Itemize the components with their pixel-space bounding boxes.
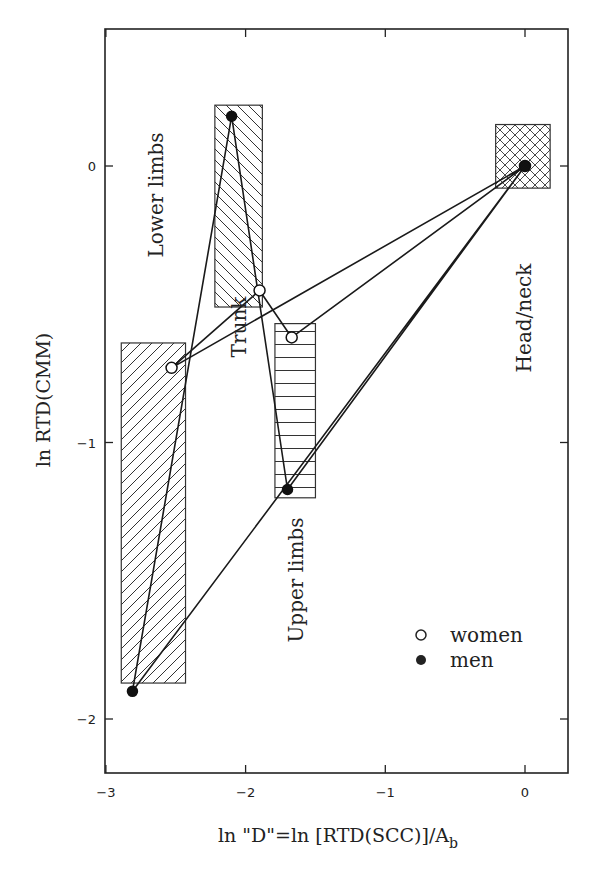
y-tick-label: −2: [77, 712, 96, 727]
legend: women men: [416, 623, 523, 672]
legend-label-men: men: [450, 648, 494, 672]
y-tick-label: −1: [77, 436, 96, 451]
lines-layer: [132, 116, 525, 691]
point-men-head-neck-overlay: [520, 161, 530, 171]
region-label-lower-limbs: Lower limbs: [144, 132, 168, 257]
y-axis-title: ln RTD(CMM): [32, 333, 54, 468]
x-tick-label: −1: [376, 785, 395, 800]
point-men-upper-limbs: [283, 485, 293, 495]
legend-marker-women: [416, 630, 426, 640]
y-tick-label: 0: [88, 159, 96, 174]
region-label-head-neck: Head/neck: [512, 263, 536, 373]
point-women-trunk: [254, 285, 265, 296]
region-label-upper-limbs: Upper limbs: [284, 517, 308, 642]
point-women-upper-limbs: [286, 332, 297, 343]
x-tick-label: 0: [521, 785, 529, 800]
legend-marker-men: [416, 655, 426, 665]
x-axis-title: ln "D"=ln [RTD(SCC)]/Ab: [218, 824, 458, 851]
x-tick-label: −3: [96, 785, 115, 800]
region-box-upper-limbs: [275, 324, 316, 498]
regions-layer: [121, 105, 550, 683]
point-men-lower-limbs: [127, 686, 137, 696]
point-men-trunk: [227, 111, 237, 121]
x-tick-label: −2: [236, 785, 255, 800]
chart: −3−2−10 0−1−2 ln RTD(CMM) ln "D"=ln [RTD…: [0, 0, 595, 871]
region-label-trunk: Trunk: [227, 296, 251, 358]
point-women-lower-limbs: [166, 362, 177, 373]
legend-label-women: women: [450, 623, 523, 647]
points-layer: [127, 111, 530, 696]
region-labels: Lower limbsTrunkUpper limbsHead/neck: [144, 132, 536, 642]
series-line-men: [132, 116, 525, 691]
